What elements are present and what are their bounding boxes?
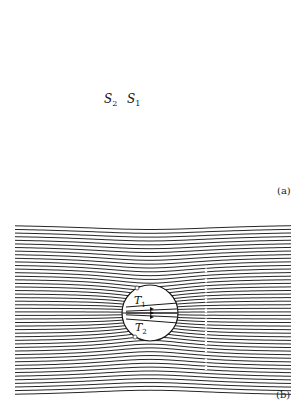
label-t2: T2 <box>135 321 147 336</box>
panel-b-label: (b) <box>276 389 290 400</box>
streamline-figure: S2 S1 (a) T1 T2 (b) <box>0 0 306 415</box>
panel-a-label: (a) <box>277 185 291 196</box>
figure: S2 S1 (a) T1 T2 (b) <box>0 0 306 415</box>
label-t1: T1 <box>134 294 146 309</box>
panel-b-streamlines <box>0 0 306 394</box>
